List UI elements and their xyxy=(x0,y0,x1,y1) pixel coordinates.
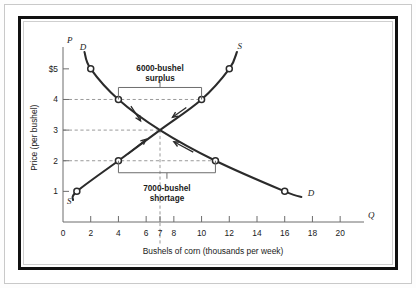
demand-point-marker xyxy=(282,188,288,194)
annotation-label-surplus-line2: surplus xyxy=(145,74,175,83)
x-tick-label: 8 xyxy=(172,228,177,238)
demand-curve-label: D xyxy=(79,42,87,52)
x-tick-label: 10 xyxy=(197,228,207,238)
demand-curve xyxy=(84,52,301,197)
figure-page: PQ1234$5024678101214161820Bushels of cor… xyxy=(0,0,416,288)
y-tick-label: 2 xyxy=(53,156,58,166)
x-tick-label: 2 xyxy=(88,228,93,238)
supply-point-marker xyxy=(226,66,232,72)
y-tick-label: 4 xyxy=(53,94,58,104)
x-tick-label: 6 xyxy=(144,228,149,238)
y-axis-title: Price (per bushel) xyxy=(29,105,39,171)
chart-svg: PQ1234$5024678101214161820Bushels of cor… xyxy=(23,21,393,265)
supply-curve-label: S xyxy=(237,41,242,51)
x-tick-label: 16 xyxy=(280,228,290,238)
annotation-bracket-surplus xyxy=(118,81,201,99)
y-axis-variable-label: P xyxy=(66,35,73,45)
x-tick-label: 4 xyxy=(116,228,121,238)
x-tick-label: 0 xyxy=(61,228,66,238)
annotation-bracket-shortage xyxy=(118,161,215,179)
x-tick-label: 14 xyxy=(252,228,262,238)
x-axis-title: Bushels of corn (thousands per week) xyxy=(143,246,284,256)
annotation-label-shortage-line1: 7000-bushel xyxy=(143,184,190,193)
annotation-label-shortage-line2: shortage xyxy=(150,194,185,203)
supply-point-marker xyxy=(74,188,80,194)
x-axis-variable-label: Q xyxy=(368,210,375,220)
arrow-surplus-demand-side xyxy=(131,106,141,121)
y-tick-label: $5 xyxy=(49,64,59,74)
arrow-shortage-supply-side xyxy=(128,139,146,154)
supply-curve-label: S xyxy=(67,196,72,206)
x-tick-label: 20 xyxy=(335,228,345,238)
annotation-label-surplus-line1: 6000-bushel xyxy=(136,64,183,73)
supply-demand-chart: PQ1234$5024678101214161820Bushels of cor… xyxy=(23,21,393,265)
y-tick-label: 3 xyxy=(53,125,58,135)
x-tick-label: 7 xyxy=(158,228,163,238)
y-tick-label: 1 xyxy=(53,186,58,196)
x-tick-label: 12 xyxy=(225,228,235,238)
demand-point-marker xyxy=(88,66,94,72)
demand-curve-label: D xyxy=(307,188,315,198)
x-tick-label: 18 xyxy=(308,228,318,238)
